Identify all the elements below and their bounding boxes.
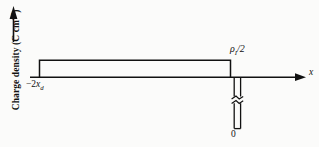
x-tick-label-left: −2xd [26, 80, 44, 92]
delta-spike [232, 77, 244, 128]
x-axis-arrow-icon [30, 73, 306, 81]
x-axis-title: x [309, 68, 313, 78]
plot-canvas [0, 0, 319, 147]
x-tick-left-subscript: d [40, 84, 43, 91]
x-tick-left-prefix: −2 [26, 79, 36, 89]
spike-base-label: 0 [231, 130, 236, 140]
charge-block-rectangle [40, 60, 231, 77]
plateau-level-label: ρI/2 [230, 44, 245, 57]
plateau-suffix: /2 [237, 43, 245, 54]
y-axis-title: Charge density (C cm−3) [10, 0, 22, 124]
y-axis-title-text: Charge density (C cm [11, 20, 21, 110]
y-axis-title-close: ) [11, 9, 21, 12]
y-axis-title-exponent: −3 [9, 13, 16, 20]
charge-density-figure: Charge density (C cm−3) −2xd ρI/2 0 x [0, 0, 319, 147]
